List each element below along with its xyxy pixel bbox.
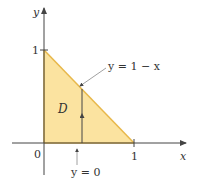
hypotenuse-callout-arrow [80,68,106,86]
hypotenuse-annotation: y = 1 − x [107,60,161,73]
double-integral-region-diagram: y x 0 1 1 D y = 1 − x y = 0 [0,0,201,180]
origin-label: 0 [34,148,41,161]
y-axis-label: y [32,6,40,19]
region-label: D [57,102,68,116]
x-axis-label: x [180,150,187,163]
y-tick-1-label: 1 [32,44,39,57]
x-tick-1-label: 1 [131,150,138,163]
bottom-annotation: y = 0 [70,166,100,179]
